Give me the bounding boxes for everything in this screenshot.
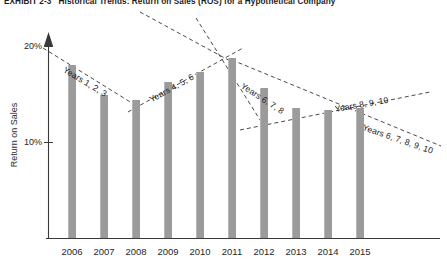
plot-area: Return on Sales 20% 10% 2006 2007 2008 2… xyxy=(0,0,447,268)
bar-2010 xyxy=(196,72,204,238)
trend-line-years-1-2-3 xyxy=(43,48,140,108)
y-tick-label-10: 10% xyxy=(8,137,42,147)
bar-2014 xyxy=(324,110,332,238)
bar-2008 xyxy=(132,100,140,238)
y-axis-label: Return on Sales xyxy=(9,92,19,178)
bar-2009 xyxy=(164,82,172,238)
bar-2007 xyxy=(100,95,108,238)
bar-2011 xyxy=(228,58,236,238)
bar-2013 xyxy=(292,108,300,238)
x-tick-label-2015: 2015 xyxy=(340,246,380,257)
bar-2012 xyxy=(260,88,268,238)
y-tick-label-20: 20% xyxy=(8,41,42,51)
y-axis xyxy=(44,32,53,238)
chart-figure: EXHIBIT 2-3Historical Trends: Return on … xyxy=(0,0,447,268)
trend-line-crossing-segment xyxy=(140,12,232,62)
bar-2006 xyxy=(68,65,76,238)
